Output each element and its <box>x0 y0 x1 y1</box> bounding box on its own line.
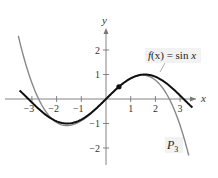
y-tick-label: 1 <box>95 69 100 80</box>
y-axis-arrow-icon <box>104 28 109 34</box>
sin-label-x: x <box>190 49 196 61</box>
sin-label-leader <box>160 63 165 72</box>
y-tick-label: 2 <box>95 45 100 56</box>
x-axis-arrow-icon <box>190 97 196 102</box>
y-tick-label: −1 <box>89 118 100 129</box>
sin-label-rest: (x) = sin <box>151 49 191 62</box>
sin-label: f(x) = sin x <box>148 49 196 62</box>
x-tick-label: −3 <box>24 103 35 114</box>
chart: −3−2−1123−2−112 x y f(x) = sin x P3 <box>0 0 218 178</box>
x-tick-label: −1 <box>73 103 84 114</box>
x-axis-label: x <box>200 92 206 104</box>
x-tick-label: 1 <box>128 103 133 114</box>
x-tick-label: −2 <box>48 103 59 114</box>
y-axis-label: y <box>101 14 107 26</box>
x-tick-label: 3 <box>178 103 183 114</box>
x-tick-label: 2 <box>153 103 158 114</box>
p3-label-sub: 3 <box>174 145 178 154</box>
center-point <box>116 84 121 89</box>
y-tick-label: −2 <box>89 143 100 154</box>
